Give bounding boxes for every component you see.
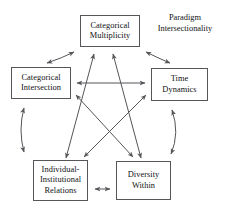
node-categorical-multiplicity[interactable]: Categorical Multiplicity bbox=[80, 15, 140, 47]
node-label-line1: Diversity bbox=[128, 170, 160, 180]
node-label-line2: Intersection bbox=[21, 83, 61, 93]
edge-time-dynamics-to-diversity-within bbox=[171, 110, 176, 154]
node-label-line1: Categorical bbox=[90, 21, 129, 31]
edge-multiplicity-to-diversity-within bbox=[113, 54, 141, 158]
edge-intersection-to-diversity-within bbox=[76, 95, 133, 157]
node-diversity-within[interactable]: Diversity Within bbox=[116, 161, 171, 200]
node-label-line2: Within bbox=[132, 181, 155, 191]
caption-line1: Paradigm bbox=[145, 13, 225, 24]
node-time-dynamics[interactable]: Time Dynamics bbox=[151, 68, 208, 101]
paradigm-intersectionality-diagram: Categorical Multiplicity Categorical Int… bbox=[0, 0, 226, 213]
edge-intersection-to-individual-institutional bbox=[21, 108, 24, 152]
edge-time-dynamics-to-individual-institutional bbox=[84, 95, 146, 157]
node-label-line1: Time bbox=[171, 74, 189, 84]
edge-multiplicity-to-time-dynamics bbox=[146, 52, 170, 63]
node-individual-institutional-relations[interactable]: Individual- Institutional Relations bbox=[33, 160, 88, 201]
node-label-line2: Institutional bbox=[40, 175, 81, 185]
edge-multiplicity-to-intersection bbox=[47, 52, 74, 63]
node-label-line2: Multiplicity bbox=[90, 31, 131, 41]
node-label-line1: Categorical bbox=[21, 73, 60, 83]
caption-line2: Intersectionality bbox=[145, 24, 225, 35]
caption-paradigm-intersectionality: Paradigm Intersectionality bbox=[145, 13, 225, 34]
node-label-line1: Individual- bbox=[42, 165, 80, 175]
node-label-line2: Dynamics bbox=[162, 85, 196, 95]
node-label-line3: Relations bbox=[44, 186, 76, 196]
node-categorical-intersection[interactable]: Categorical Intersection bbox=[11, 67, 71, 99]
